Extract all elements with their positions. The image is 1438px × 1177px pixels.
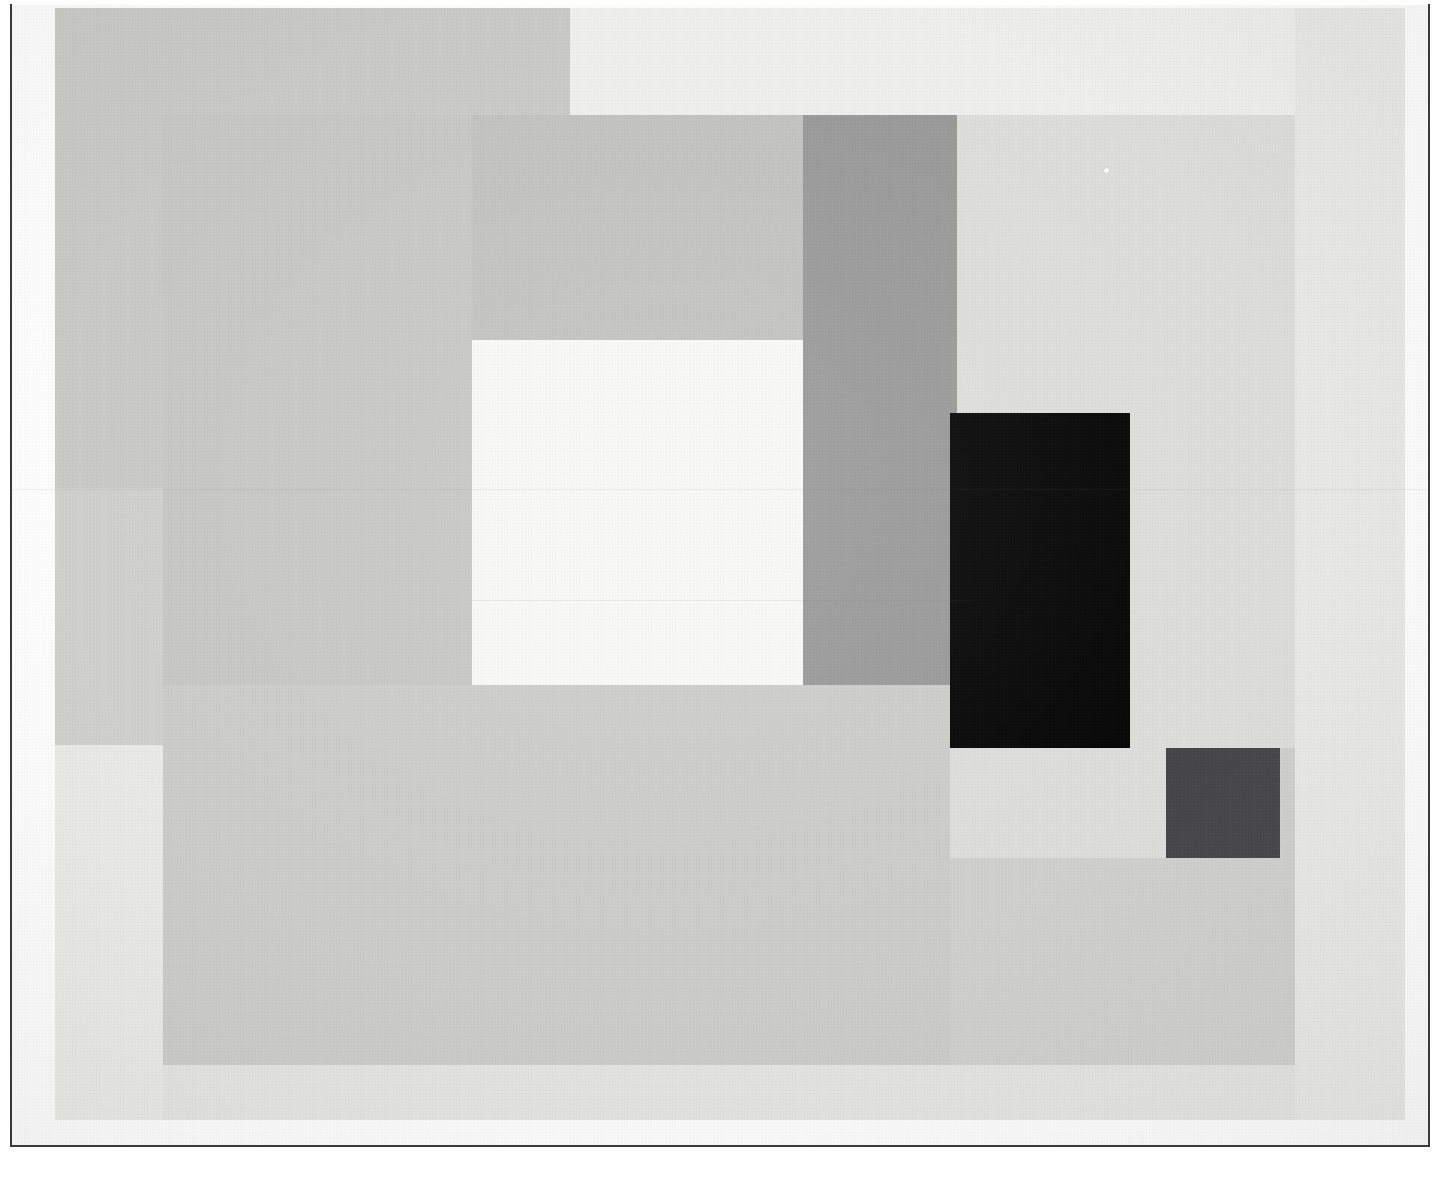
- block-top-pale-band: [570, 8, 1295, 116]
- block-lower-center-field: [163, 685, 950, 1065]
- block-upper-right-pale-field: [1295, 8, 1405, 1120]
- frame-rule-top: [10, 4, 1430, 5]
- block-lower-left-pale-block: [55, 745, 163, 1120]
- block-lower-right-pale-band: [950, 748, 1166, 858]
- block-dark-gray-square: [1166, 748, 1280, 858]
- block-bottom-pale-sweep: [163, 1065, 1295, 1120]
- dust-speck-icon: [1104, 168, 1109, 173]
- frame-rule-left: [10, 4, 12, 1147]
- artwork-canvas: [0, 0, 1438, 1177]
- frame-rule-right: [1428, 4, 1430, 1147]
- block-steel-gray-column: [803, 115, 957, 685]
- block-center-white-rectangle: [472, 340, 803, 685]
- frame-rule-bottom: [10, 1145, 1430, 1147]
- block-black-rectangle: [950, 413, 1130, 748]
